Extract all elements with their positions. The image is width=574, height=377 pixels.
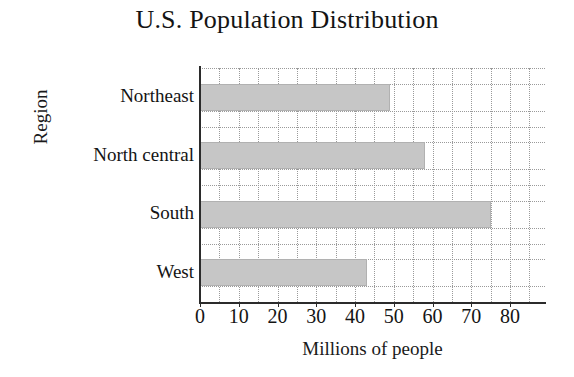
bar xyxy=(200,259,367,286)
y-axis-tick-label: South xyxy=(20,202,194,224)
bar-series xyxy=(200,68,545,302)
plot-area xyxy=(200,68,545,302)
x-axis-tick-label: 40 xyxy=(345,305,365,328)
x-axis-line xyxy=(199,302,546,304)
bar-chart: U.S. Population Distribution Region Mill… xyxy=(0,0,574,377)
y-axis-tick-label: Northeast xyxy=(20,85,194,107)
chart-title: U.S. Population Distribution xyxy=(0,6,574,35)
bar xyxy=(200,84,390,111)
y-axis-tick-label: North central xyxy=(20,144,194,166)
y-axis-line xyxy=(199,66,201,304)
y-axis-tick-label: West xyxy=(20,261,194,283)
bar xyxy=(200,201,491,228)
x-axis-tick-label: 70 xyxy=(461,305,481,328)
x-axis-title: Millions of people xyxy=(200,338,545,360)
bar xyxy=(200,142,425,169)
x-axis-tick-label: 30 xyxy=(306,305,326,328)
x-axis-tick-label: 80 xyxy=(500,305,520,328)
x-axis-tick-label: 20 xyxy=(268,305,288,328)
x-axis-tick-label: 10 xyxy=(229,305,249,328)
y-axis-title: Region xyxy=(30,32,52,202)
x-axis-tick-label: 60 xyxy=(423,305,443,328)
x-axis-tick-label: 0 xyxy=(195,305,205,328)
x-axis-tick-label: 50 xyxy=(384,305,404,328)
